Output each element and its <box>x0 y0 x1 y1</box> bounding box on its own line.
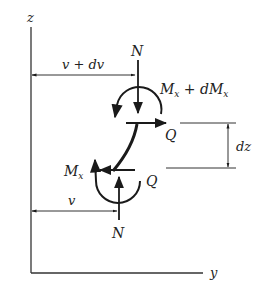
dimension-dz: dz <box>166 123 251 168</box>
bottom-moment-label: Mx <box>63 163 83 181</box>
dimension-v-plus-dv: v + dv <box>32 57 135 75</box>
dimension-v-plus-dv-label: v + dv <box>62 57 105 72</box>
bottom-shear-force: Q <box>100 170 158 189</box>
top-moment: Mx + dMx <box>115 81 228 117</box>
z-axis-label: z <box>26 10 34 25</box>
dimension-v-label: v <box>68 193 76 208</box>
top-moment-label: Mx + dMx <box>159 81 228 99</box>
top-shear-force-label: Q <box>165 127 177 143</box>
top-axial-force: N <box>130 43 144 113</box>
bottom-axial-force: N <box>111 177 125 241</box>
bottom-shear-force-label: Q <box>146 173 158 189</box>
beam-element-diagram: z y v + dv v dz N Mx + dMx Q Q <box>0 0 268 299</box>
beam-element <box>113 124 137 171</box>
y-axis-label: y <box>209 265 218 280</box>
dimension-dz-label: dz <box>236 139 251 154</box>
bottom-axial-force-label: N <box>111 225 125 241</box>
dimension-v: v <box>32 193 117 211</box>
top-axial-force-label: N <box>130 43 144 59</box>
